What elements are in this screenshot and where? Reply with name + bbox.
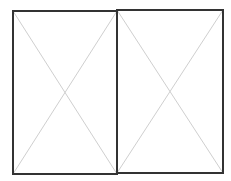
placeholder-diagram: [0, 0, 231, 181]
background: [0, 0, 231, 181]
